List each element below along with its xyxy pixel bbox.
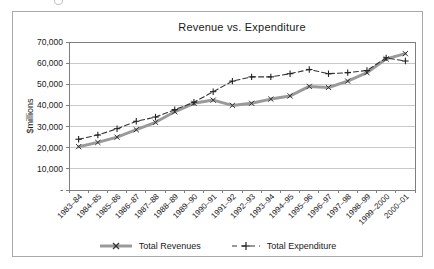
legend: Total Revenues Total Expenditure <box>13 241 422 251</box>
legend-item-total-revenues: Total Revenues <box>99 241 201 251</box>
figure: Revenue vs. Expenditure $millions -10,00… <box>0 0 434 269</box>
y-tick-label: 60,000 <box>37 58 63 68</box>
y-axis-title: $millions <box>25 98 35 134</box>
x-category-labels: 1983–841984–851985–861986–871987–881988–… <box>56 192 412 227</box>
y-tick-label: 70,000 <box>37 37 63 47</box>
chart-area: Revenue vs. Expenditure $millions -10,00… <box>12 11 423 257</box>
y-tick-label: 30,000 <box>37 122 63 132</box>
y-tick-label: 20,000 <box>37 143 63 153</box>
y-tick-label: 10,000 <box>37 164 63 174</box>
y-tick-label: 40,000 <box>37 100 63 110</box>
plot-layers: -10,00020,00030,00040,00050,00060,00070,… <box>37 37 415 227</box>
y-tick-label: - <box>60 185 63 195</box>
legend-label-total-expenditure: Total Expenditure <box>267 241 337 251</box>
revenues-line-x-marker-icon <box>99 241 133 251</box>
y-tick-label: 50,000 <box>37 79 63 89</box>
plot-border <box>69 42 415 190</box>
cropped-text-fragment <box>54 0 63 5</box>
series-total-revenues <box>76 51 408 149</box>
gridlines <box>66 42 415 190</box>
y-tick-labels: -10,00020,00030,00040,00050,00060,00070,… <box>37 37 63 195</box>
series-total-expenditure <box>75 55 408 143</box>
legend-item-total-expenditure: Total Expenditure <box>231 241 337 251</box>
plot-svg: $millions -10,00020,00030,00040,00050,00… <box>13 12 422 256</box>
expenditure-dashed-plus-marker-icon <box>231 241 261 251</box>
legend-label-total-revenues: Total Revenues <box>139 241 201 251</box>
